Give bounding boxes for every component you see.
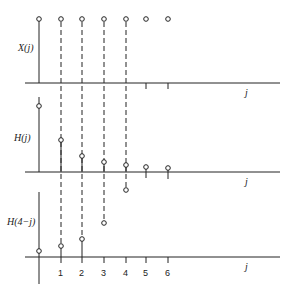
tick-3: 3 <box>101 268 106 278</box>
xlabel-2: j <box>243 176 248 187</box>
xlabel-3: j <box>243 261 248 272</box>
tick-4: 4 <box>123 268 128 278</box>
xlabel-1: j <box>243 87 248 98</box>
tick-1: 1 <box>58 268 63 278</box>
ylabel-h-reversed: H(4−j) <box>6 216 36 228</box>
dashed-guides <box>61 22 126 246</box>
tick-6: 6 <box>165 268 170 278</box>
ylabel-x: X(j) <box>17 42 34 54</box>
tick-5: 5 <box>143 268 148 278</box>
tick-2: 2 <box>79 268 84 278</box>
convolution-diagram: X(j) j H(j) j H(4−j) j 1 2 3 4 5 6 <box>0 0 287 288</box>
ylabel-h: H(j) <box>13 132 31 144</box>
